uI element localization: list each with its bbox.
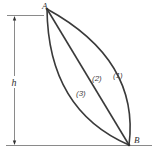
path-3-label: (3) (76, 89, 86, 98)
path-1-label: (1) (113, 71, 123, 80)
path-2-label: (2) (92, 74, 102, 83)
dimension-arrow-up-icon (13, 16, 16, 21)
point-b-marker (128, 144, 131, 147)
brachistochrone-diagram: h A B (1) (2) (3) (0, 0, 161, 151)
dimension-arrow-down-icon (13, 141, 16, 146)
height-label: h (12, 77, 17, 88)
point-b-label: B (134, 135, 140, 145)
point-a-label: A (41, 1, 48, 11)
